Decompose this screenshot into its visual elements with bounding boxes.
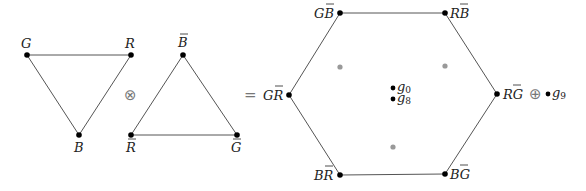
vertex-gbar — [234, 132, 240, 138]
label-b: B — [73, 140, 84, 155]
singlet: g9 — [546, 85, 567, 101]
gray-point — [390, 144, 395, 149]
tensor-product-operator: ⊗ — [124, 86, 137, 104]
label-rbbar: RB — [449, 6, 469, 21]
label-gbar: G — [231, 140, 241, 155]
direct-sum-operator: ⊕ — [529, 85, 542, 103]
vertex-bgbar — [442, 171, 448, 177]
color-diagram: G R B ⊗ B R G = GB RB RG BG BR — [0, 0, 586, 191]
label-rgbar: RG — [502, 87, 523, 102]
label-bgbar: BG — [449, 167, 470, 182]
triplet-triangle: G R B — [21, 36, 135, 155]
vertex-r — [128, 52, 134, 58]
center-point-g0 — [391, 86, 396, 91]
equals-operator: = — [244, 86, 257, 104]
vertex-b — [76, 132, 82, 138]
antitriplet-triangle: B R G — [125, 34, 241, 155]
label-gbbar: GB — [314, 6, 334, 21]
label-rbar: R — [125, 140, 136, 155]
vertex-bbar — [180, 52, 186, 58]
gray-point — [442, 63, 447, 68]
vertex-rgbar — [494, 91, 500, 97]
vertex-grbar — [286, 92, 292, 98]
label-g: G — [21, 36, 31, 51]
vertex-brbar — [337, 172, 343, 178]
label-g9: g9 — [552, 85, 566, 101]
vertex-g — [24, 52, 30, 58]
vertex-gbbar — [337, 10, 343, 16]
label-bbar: B — [177, 35, 188, 50]
triplet-edges — [27, 55, 131, 135]
label-r: R — [124, 36, 135, 51]
singlet-point-g9 — [546, 92, 551, 97]
antitriplet-edges — [131, 55, 237, 135]
vertex-rbar — [128, 132, 134, 138]
gray-point — [337, 64, 342, 69]
hexagon-edges — [289, 13, 497, 175]
label-brbar: BR — [313, 168, 334, 183]
center-point-g8 — [391, 97, 396, 102]
label-grbar: GR — [263, 88, 283, 103]
vertex-rbbar — [442, 10, 448, 16]
octet-hexagon: GB RB RG BG BR GR g0 g8 — [263, 4, 523, 183]
